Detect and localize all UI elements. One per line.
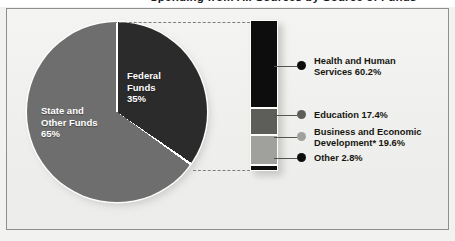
pie-label-federal-percent: 35% [127, 93, 146, 104]
legend-leader-line-4 [274, 158, 297, 159]
legend-leader-line-1 [274, 66, 297, 67]
callout-line-top [114, 22, 255, 23]
chart-title-band: Spending from All Sources by Source of F… [0, 0, 455, 7]
legend-leader-line-3 [274, 137, 297, 138]
pie-label-state-other-funds: State and Other Funds 65% [41, 105, 97, 140]
chart-title: Spending from All Sources by Source of F… [150, 0, 417, 3]
stacked-bar-chart [250, 20, 284, 174]
legend-bullet-business-and-economic-development [297, 132, 306, 141]
chart-figure: Spending from All Sources by Source of F… [0, 0, 455, 241]
legend-label-other: Other 2.8% [314, 153, 363, 164]
callout-line-bottom [193, 170, 255, 171]
stacked-bar-body [250, 20, 278, 171]
bar-segment-education [250, 108, 278, 135]
legend-bullet-health-and-human-services [297, 61, 306, 70]
pie-label-state-name: State and Other Funds [41, 105, 97, 128]
pie-chart: Federal Funds 35% State and Other Funds … [23, 17, 213, 209]
chart-frame: Federal Funds 35% State and Other Funds … [6, 8, 449, 230]
legend-bullet-education [297, 110, 306, 119]
legend-label-business-and-economic-development: Business and Economic Development* 19.6% [314, 127, 421, 150]
legend-bullet-other [297, 153, 306, 162]
bar-segment-other [250, 165, 278, 171]
pie-label-federal-funds: Federal Funds 35% [127, 70, 161, 105]
pie-label-federal-name: Federal Funds [127, 70, 161, 93]
legend-label-education: Education 17.4% [314, 110, 388, 121]
bar-segment-health-and-human-services [250, 20, 278, 108]
pie-divider [116, 22, 118, 112]
bar-segment-business-and-economic-development [250, 135, 278, 165]
legend: Health and Human Services 60.2% Educatio… [284, 9, 449, 230]
legend-label-health-and-human-services: Health and Human Services 60.2% [314, 56, 396, 79]
legend-leader-line-2 [274, 115, 297, 116]
pie-label-state-percent: 65% [41, 128, 60, 139]
